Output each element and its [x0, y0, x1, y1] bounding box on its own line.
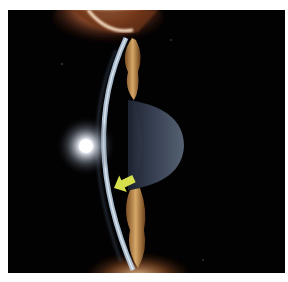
iris-upper: [125, 38, 141, 100]
slit-lamp-photo: [8, 10, 285, 273]
eye-illustration: [8, 10, 285, 273]
